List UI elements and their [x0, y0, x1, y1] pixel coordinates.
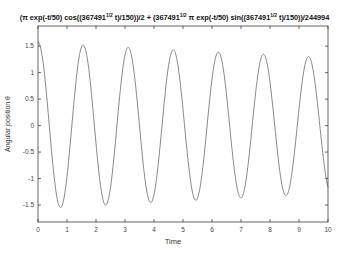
svg-text:6: 6: [210, 226, 214, 233]
chart-figure: (π exp(-t/50) cos((3674911/2 t)/150))/2 …: [0, 0, 349, 255]
svg-text:-0.5: -0.5: [23, 148, 35, 155]
plot-area: 0123456789101.510.50-0.5-1-1.5: [0, 0, 349, 255]
svg-text:0: 0: [30, 122, 34, 129]
svg-text:-1: -1: [28, 175, 34, 182]
svg-text:0.5: 0.5: [25, 95, 34, 102]
axes-background: [38, 26, 328, 222]
svg-text:8: 8: [268, 226, 272, 233]
x-axis-label: Time: [165, 237, 181, 246]
svg-text:10: 10: [324, 226, 332, 233]
svg-text:1: 1: [65, 226, 69, 233]
svg-text:2: 2: [94, 226, 98, 233]
svg-text:9: 9: [297, 226, 301, 233]
svg-text:5: 5: [181, 226, 185, 233]
svg-text:3: 3: [123, 226, 127, 233]
svg-text:0: 0: [36, 226, 40, 233]
svg-text:-1.5: -1.5: [23, 201, 35, 208]
svg-text:4: 4: [152, 226, 156, 233]
y-axis-label: Angular position θ: [4, 96, 11, 152]
svg-text:1: 1: [30, 69, 34, 76]
svg-text:1.5: 1.5: [25, 42, 34, 49]
svg-text:7: 7: [239, 226, 243, 233]
